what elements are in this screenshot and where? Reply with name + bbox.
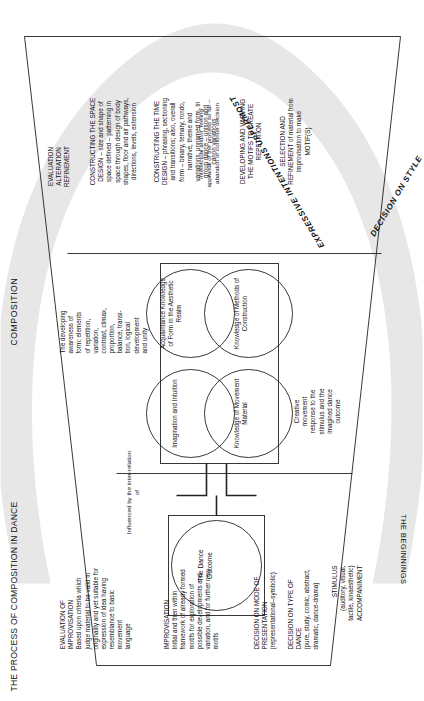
composition-heading: COMPOSITION: [8, 277, 18, 345]
influenced-by-text: Influenced by the inter-relation of: [124, 449, 140, 535]
developing-awareness-text: The developing awareness of form: elemen…: [58, 257, 148, 353]
mode-of-presentation-text: DECISION ON MODE OF PRESENTATION (repres…: [252, 479, 277, 649]
circle-label-methods-construction: Knowledge of Methods of Construction: [232, 277, 248, 349]
beginnings-label: THE BEGINNINGS: [398, 514, 407, 584]
page-title: THE PROCESS OF COMPOSITION IN DANCE: [8, 501, 18, 691]
stimulus-text: STIMULUS (auditory, visual, tactile, kin…: [330, 565, 363, 657]
evaluation-text: EVALUATION ALTERATION REFINEMENT: [46, 101, 71, 231]
circle-label-movement-material: Knowledge of Movement Material: [232, 377, 248, 449]
circle-label-aesthetic-realm: Acquaintance Knowledge of Form in the Ae…: [158, 277, 182, 349]
evaluation-of-improvisation-text: EVALUATION OF IMPROVISATION Based upon c…: [58, 479, 132, 649]
creative-movement-text: Creative movement response to the stimul…: [292, 359, 341, 463]
constructing-space-text: CONSTRUCTING THE SPACE DESIGN – size and…: [88, 43, 137, 239]
dance-outcome-label: The Dance Outcome: [196, 535, 214, 595]
developing-motifs-text: DEVELOPING AND VARYING THE MOTIFS TO CRE…: [238, 43, 263, 239]
constructing-time-text: CONSTRUCTING THE TIME DESIGN – phrasing,…: [152, 43, 217, 239]
selection-refinement-text: SELECTION AND REFINEMENT of material fro…: [278, 43, 311, 239]
circle-label-imagination: Imagination and Intuition: [170, 377, 178, 449]
type-of-dance-text: DECISION ON TYPE OF DANCE (pure, study, …: [286, 479, 319, 649]
